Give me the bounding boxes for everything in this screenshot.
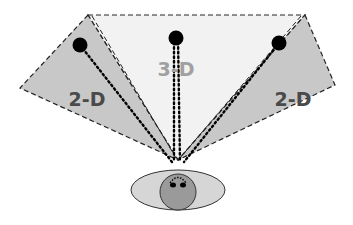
view-point-right-icon (272, 36, 287, 51)
right-2d-label: 2-D (275, 88, 312, 110)
view-point-center-icon (169, 31, 184, 46)
eye-focus-right-icon (180, 183, 186, 188)
eye-focus-left-icon (170, 183, 176, 188)
vision-diagram: 2-D 3-D 2-D (0, 0, 353, 225)
view-point-left-icon (73, 38, 88, 53)
eye-iris-icon (160, 174, 196, 210)
center-3d-label: 3-D (158, 58, 195, 80)
left-2d-label: 2-D (69, 88, 106, 110)
diagram-canvas: 2-D 3-D 2-D (0, 0, 353, 225)
